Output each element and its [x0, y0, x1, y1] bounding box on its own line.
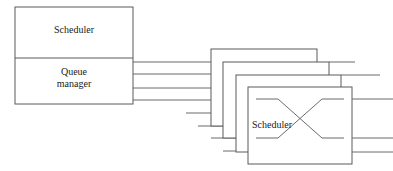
scheduler-node-front	[248, 87, 352, 164]
diagram-svg	[0, 0, 393, 171]
diagram-canvas: Scheduler Queue manager Scheduler	[0, 0, 393, 171]
scheduler-queue-unit	[15, 7, 133, 104]
